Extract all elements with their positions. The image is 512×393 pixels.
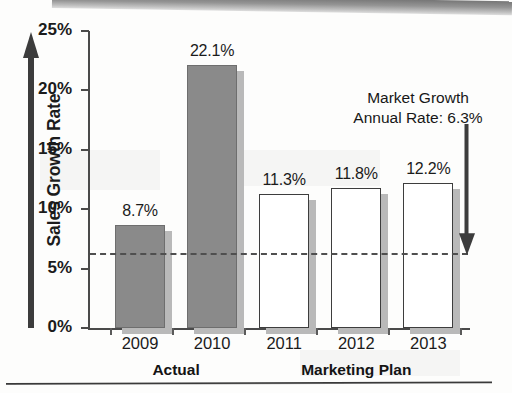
y-axis-tick-label: 25% — [38, 20, 72, 40]
x-axis-tick-label-2012: 2012 — [338, 334, 375, 353]
plot-area: 0%5%10%15%20%25%8.7%22.1%11.3%11.8%12.2% — [88, 31, 470, 329]
bar-2009[interactable] — [115, 225, 165, 328]
x-axis-tick-label-2011: 2011 — [266, 334, 301, 353]
y-axis-arrow-icon — [22, 32, 40, 328]
bar-2010[interactable] — [187, 65, 237, 328]
y-axis-tick-label: 20% — [38, 79, 72, 99]
y-axis-tick: 25% — [81, 30, 89, 32]
bar-value-label-2012: 11.8% — [335, 165, 378, 183]
x-axis-tick-label-2013: 2013 — [410, 334, 447, 353]
y-axis-tick: 5% — [81, 268, 89, 270]
group-label-marketing-plan: Marketing Plan — [301, 361, 411, 379]
x-axis-tick — [110, 328, 112, 335]
market-growth-annotation-line1: Market Growth — [342, 88, 494, 108]
y-axis-tick-label: 15% — [38, 138, 72, 158]
bar-value-label-2010: 22.1% — [190, 42, 234, 60]
y-axis-tick-label: 5% — [47, 257, 72, 277]
market-growth-reference-line — [90, 253, 468, 255]
y-axis-title: Sales Growth Rate — [39, 70, 69, 270]
bar-value-label-2011: 11.3% — [263, 171, 306, 189]
y-axis-line — [88, 31, 90, 329]
y-axis-tick-label: 10% — [38, 198, 72, 218]
bar-value-label-2013: 12.2% — [406, 160, 450, 178]
y-axis-tick: 0% — [81, 327, 89, 329]
x-axis-tick — [244, 328, 246, 335]
market-growth-annotation: Market GrowthAnnual Rate: 6.3% — [342, 88, 494, 128]
bar-2013[interactable] — [403, 183, 453, 328]
bar-2011[interactable] — [259, 194, 309, 328]
group-label-actual: Actual — [152, 361, 199, 379]
x-axis-tick — [460, 328, 462, 335]
x-axis-tick — [172, 328, 174, 335]
x-axis-tick — [316, 328, 318, 335]
bar-2012[interactable] — [331, 188, 381, 328]
scan-bottom-rule — [6, 381, 492, 385]
y-axis-tick: 10% — [81, 208, 89, 210]
y-axis-tick: 20% — [81, 89, 89, 91]
bar-value-label-2009: 8.7% — [122, 202, 158, 220]
x-axis-tick-label-2010: 2010 — [194, 334, 231, 353]
x-axis-tick — [388, 328, 390, 335]
y-axis-tick: 15% — [81, 149, 89, 151]
y-axis-tick-label: 0% — [47, 317, 72, 337]
market-growth-down-arrow-icon — [457, 124, 477, 255]
x-axis-tick-label-2009: 2009 — [122, 334, 159, 353]
scan-top-band — [52, 0, 512, 15]
y-axis-title-text: Sales Growth Rate — [44, 94, 65, 247]
